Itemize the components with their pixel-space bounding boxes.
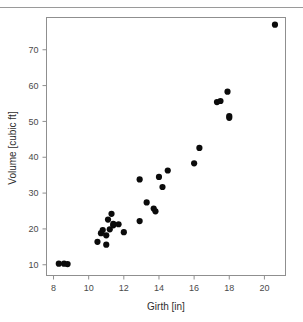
data-point — [94, 239, 100, 245]
data-point — [121, 229, 127, 235]
data-point — [115, 221, 121, 227]
data-point — [137, 218, 143, 224]
y-tick-label: 10 — [28, 260, 38, 270]
x-axis-ticks: 8101214161820 — [51, 276, 269, 293]
data-point — [108, 211, 114, 217]
x-tick-label: 14 — [154, 283, 164, 293]
y-tick-label: 30 — [28, 188, 38, 198]
x-axis-title: Girth [in] — [147, 301, 185, 312]
x-tick-label: 20 — [259, 283, 269, 293]
data-point — [144, 199, 150, 205]
x-tick-label: 18 — [224, 283, 234, 293]
data-point — [110, 221, 116, 227]
y-tick-label: 50 — [28, 117, 38, 127]
x-tick-label: 16 — [189, 283, 199, 293]
y-tick-label: 20 — [28, 224, 38, 234]
plot-frame — [47, 18, 286, 276]
y-tick-label: 40 — [28, 152, 38, 162]
data-point — [165, 167, 171, 173]
data-point — [103, 242, 109, 248]
data-point — [159, 184, 165, 190]
x-tick-label: 8 — [51, 283, 56, 293]
data-point — [226, 115, 232, 121]
data-point — [191, 160, 197, 166]
y-axis-ticks: 10203040506070 — [28, 45, 46, 270]
data-point — [105, 217, 111, 223]
data-point — [103, 232, 109, 238]
y-tick-label: 70 — [28, 45, 38, 55]
data-point — [156, 174, 162, 180]
data-point — [224, 89, 230, 95]
data-point — [100, 227, 106, 233]
x-tick-label: 12 — [119, 283, 129, 293]
scatter-plot-figure: 10203040506070 8101214161820 Girth [in] … — [0, 0, 303, 322]
data-point — [64, 261, 70, 267]
data-point — [217, 98, 223, 104]
plot-canvas: 10203040506070 8101214161820 Girth [in] … — [0, 0, 303, 322]
x-tick-label: 10 — [84, 283, 94, 293]
data-point — [152, 208, 158, 214]
y-tick-label: 60 — [28, 81, 38, 91]
data-point — [137, 176, 143, 182]
data-point — [196, 145, 202, 151]
y-axis-title: Volume [cubic ft] — [7, 111, 18, 185]
data-point — [272, 22, 278, 28]
